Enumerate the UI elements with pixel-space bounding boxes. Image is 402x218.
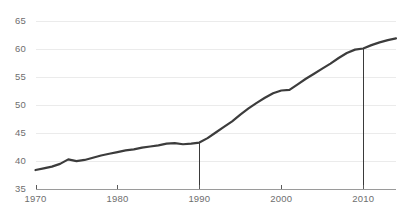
line-chart: 35404550556065 19701980199020002010 [0,0,402,218]
gridlines [36,22,397,190]
y-axis-label-65: 65 [15,15,26,26]
data-series [36,38,397,170]
x-axis-label-1990: 1990 [188,193,210,204]
chart-canvas: 35404550556065 19701980199020002010 [0,0,402,218]
x-axis-label-1970: 1970 [25,193,47,204]
x-axis-labels: 19701980199020002010 [25,193,375,204]
axis-tickmarks [37,185,364,189]
x-axis-label-1980: 1980 [106,193,128,204]
y-axis-label-45: 45 [15,127,26,138]
y-axis-label-50: 50 [15,99,26,110]
y-axis-label-55: 55 [15,71,26,82]
x-axis-label-2010: 2010 [352,193,374,204]
series-line-series-1 [36,38,397,170]
annotation-markers [200,49,364,189]
y-axis-label-60: 60 [15,43,26,54]
y-axis-labels: 35404550556065 [15,15,26,194]
y-axis-label-40: 40 [15,155,26,166]
x-axis-label-2000: 2000 [270,193,292,204]
